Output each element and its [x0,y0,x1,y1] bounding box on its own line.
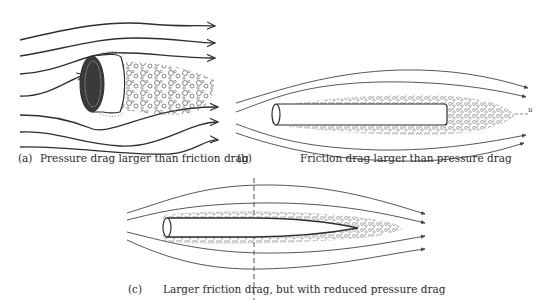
bluff-body [80,51,125,116]
panel-b-tag: (b) [237,152,252,164]
panel-a [20,23,218,154]
panel-b [236,70,530,161]
wake-a [122,62,214,115]
panel-a-caption: Pressure drag larger than friction drag [40,152,249,164]
panel-b-caption: Friction drag larger than pressure drag [300,152,512,164]
flow-velocity-label: u [528,106,533,114]
panel-c-caption: Larger friction drag, but with reduced p… [163,283,445,295]
panel-a-tag: (a) [18,152,32,164]
slender-cylinder [272,104,447,125]
panel-c [127,178,425,300]
panel-c-tag: (c) [128,283,142,295]
